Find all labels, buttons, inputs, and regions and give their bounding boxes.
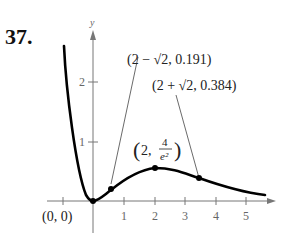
point-inflection-1 [108, 186, 114, 192]
y-axis-label: y [89, 17, 95, 28]
function-curve [64, 46, 265, 201]
label-inflection-2: (2 + √2, 0.384) [152, 78, 237, 94]
x-tick-labels: 1 2 3 4 5 [121, 209, 249, 223]
y-tick-labels: 2 1 [79, 75, 85, 149]
svg-text:4: 4 [162, 136, 168, 148]
point-maximum [152, 165, 158, 171]
leader-lines [111, 57, 199, 184]
svg-text:4: 4 [213, 209, 219, 223]
svg-text:1: 1 [79, 135, 85, 149]
label-maximum: ( 2, 4 e² ) [133, 136, 181, 162]
svg-text:(: ( [133, 137, 140, 162]
svg-text:3: 3 [182, 209, 188, 223]
label-inflection-1: (2 − √2, 0.191) [127, 52, 212, 68]
svg-text:): ) [174, 137, 181, 162]
x-axis-arrow-icon [267, 198, 276, 204]
label-origin: (0, 0) [42, 209, 73, 225]
svg-text:5: 5 [243, 209, 249, 223]
y-axis-arrow-icon [90, 30, 96, 40]
annotations: (0, 0) (2 − √2, 0.191) (2 + √2, 0.384) (… [42, 52, 237, 225]
svg-text:2: 2 [79, 75, 85, 89]
svg-text:2,: 2, [141, 143, 152, 158]
svg-text:e²: e² [160, 150, 169, 162]
point-origin [90, 198, 96, 204]
svg-text:1: 1 [121, 209, 127, 223]
point-inflection-2 [196, 175, 202, 181]
graph: y 1 2 3 4 5 2 1 (0, 0) (2 − [0, 0, 281, 233]
svg-text:2: 2 [152, 209, 158, 223]
